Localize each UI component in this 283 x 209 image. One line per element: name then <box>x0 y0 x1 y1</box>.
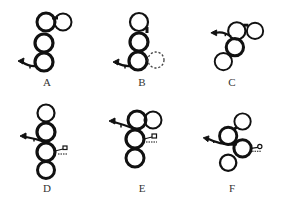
circle-icon <box>234 140 251 157</box>
circle-icon <box>215 53 232 70</box>
circle-icon <box>126 149 144 167</box>
panel-label: B <box>95 76 189 88</box>
panel-a-figure <box>0 0 94 104</box>
key-icon <box>251 144 262 151</box>
dashed-circle-icon <box>148 52 164 68</box>
circle-icon <box>37 123 55 141</box>
panel-label: C <box>185 76 279 88</box>
panel-f: F <box>185 105 279 209</box>
circle-icon <box>55 14 72 31</box>
circle-icon <box>130 13 148 31</box>
circle-icon <box>130 33 148 51</box>
panel-b: B <box>95 0 189 104</box>
circle-icon <box>220 155 236 171</box>
circle-icon <box>247 23 263 39</box>
arrowhead-icon <box>18 58 24 64</box>
panel-c-figure <box>185 0 279 104</box>
circle-icon <box>37 143 55 161</box>
circle-icon <box>234 113 250 129</box>
circle-icon <box>38 162 55 179</box>
panel-d: D <box>0 105 94 209</box>
panel-label: D <box>0 182 94 194</box>
panel-label: E <box>95 182 189 194</box>
circle-icon <box>38 105 55 122</box>
panel-e: E <box>95 105 189 209</box>
key-icon <box>144 134 157 142</box>
arrowhead-icon <box>113 59 119 65</box>
arrowhead-icon <box>203 136 209 142</box>
panel-a: A <box>0 0 94 104</box>
circle-icon <box>129 52 147 70</box>
arrowhead-icon <box>20 133 26 139</box>
arrowhead-icon <box>211 30 217 36</box>
key-icon <box>55 146 68 154</box>
circle-icon <box>126 130 144 148</box>
circle-icon <box>220 127 237 144</box>
panel-c: C <box>185 0 279 104</box>
panel-label: A <box>0 76 94 88</box>
panel-b-figure <box>95 0 189 104</box>
circle-icon <box>226 39 243 56</box>
circle-icon <box>37 13 55 31</box>
circle-icon <box>35 53 53 71</box>
circle-icon <box>35 34 53 52</box>
arrowhead-icon <box>109 118 115 124</box>
panel-label: F <box>185 182 279 194</box>
